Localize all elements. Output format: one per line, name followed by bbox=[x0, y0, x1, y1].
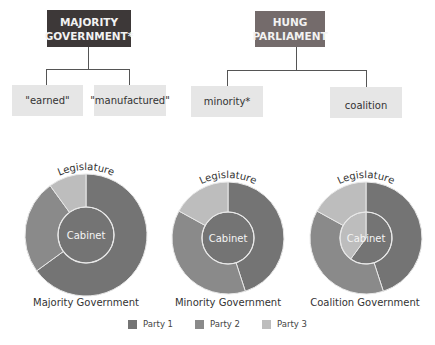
legend-label-party3: Party 3 bbox=[277, 319, 307, 329]
legend-swatch-party1 bbox=[128, 320, 137, 329]
caption-minority: Minority Government bbox=[158, 297, 298, 308]
legend-swatch-party2 bbox=[195, 320, 204, 329]
legend-item-party2: Party 2 bbox=[195, 319, 240, 329]
legend-item-party1: Party 1 bbox=[128, 319, 173, 329]
coalition-cabinet-label: Cabinet bbox=[347, 233, 386, 244]
pie-charts: CabinetLegislatureCabinetLegislatureCabi… bbox=[0, 0, 435, 310]
legend-label-party2: Party 2 bbox=[210, 319, 240, 329]
caption-coalition: Coalition Government bbox=[295, 297, 435, 308]
caption-majority: Majority Government bbox=[16, 297, 156, 308]
majority-cabinet-label: Cabinet bbox=[67, 230, 106, 241]
legend-label-party1: Party 1 bbox=[143, 319, 173, 329]
minority-cabinet-label: Cabinet bbox=[209, 233, 248, 244]
legend: Party 1 Party 2 Party 3 bbox=[0, 319, 435, 329]
legend-swatch-party3 bbox=[262, 320, 271, 329]
legend-item-party3: Party 3 bbox=[262, 319, 307, 329]
